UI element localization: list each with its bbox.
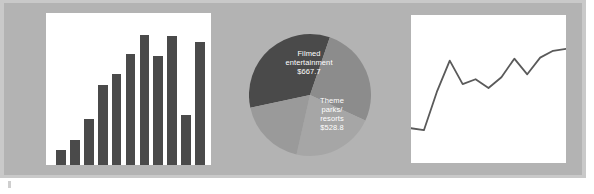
line-chart-svg (411, 15, 566, 163)
bar-2 (70, 140, 80, 165)
pie-chart-panel: Filmed entertainment $667.7 Theme parks/… (249, 33, 371, 157)
pie-label-theme-line2: parks/ (303, 105, 361, 114)
line-series-path (411, 49, 566, 130)
pie-label-theme-line1: Theme (303, 96, 361, 105)
pie-label-filmed-line2: entertainment (267, 58, 351, 67)
pie-slice-label-filmed-entertainment: Filmed entertainment $667.7 (267, 49, 351, 76)
bar-9 (167, 36, 177, 165)
bar-5 (112, 74, 122, 165)
bar-3 (84, 119, 94, 165)
bar-4 (98, 85, 108, 165)
infographic-figure: Filmed entertainment $667.7 Theme parks/… (0, 0, 594, 194)
pie-label-filmed-value: $667.7 (267, 67, 351, 76)
pie-slice-label-theme-parks-resorts: Theme parks/ resorts $528.8 (303, 96, 361, 132)
bar-6 (126, 54, 136, 165)
bar-10 (181, 115, 191, 165)
bar-series (46, 13, 211, 165)
bar-1 (56, 150, 66, 165)
bar-7 (140, 35, 150, 165)
pie-label-filmed-line1: Filmed (267, 49, 351, 58)
bar-chart-panel (46, 13, 211, 165)
corner-artifact-mark (8, 181, 11, 188)
bar-8 (153, 56, 163, 165)
pie-label-theme-line3: resorts (303, 114, 361, 123)
bar-11 (195, 42, 205, 165)
line-chart-panel (411, 15, 566, 163)
pie-label-theme-value: $528.8 (303, 123, 361, 132)
